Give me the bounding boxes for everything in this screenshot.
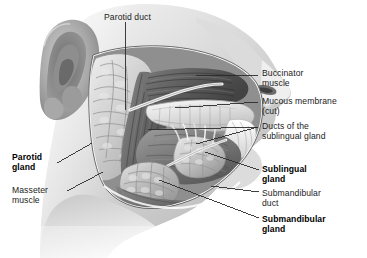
label-ducts-of-the-sublingual-gland: Ducts of thesublingual gland	[262, 121, 326, 142]
label-masseter-muscle: Massetermuscle	[12, 185, 48, 206]
label-mucous-membrane-cut: Mucous membrane(cut)	[262, 96, 337, 117]
label-line: gland	[262, 224, 326, 234]
label-submandibular-duct: Submandibularduct	[262, 188, 321, 209]
label-line: gland	[12, 162, 42, 172]
label-submandibular-gland: Submandibulargland	[262, 214, 326, 235]
label-line: Masseter	[12, 185, 48, 195]
label-line: muscle	[12, 195, 48, 205]
label-parotid-duct: Parotid duct	[104, 12, 151, 22]
label-line: Submandibular	[262, 188, 321, 198]
label-line: gland	[262, 174, 307, 184]
label-line: Mucous membrane	[262, 96, 337, 106]
label-line: duct	[262, 198, 321, 208]
label-line: Parotid	[12, 152, 42, 162]
label-sublingual-gland: Sublingualgland	[262, 164, 307, 185]
label-line: Sublingual	[262, 164, 307, 174]
label-line: Buccinator	[262, 68, 303, 78]
label-line: sublingual gland	[262, 131, 326, 141]
label-line: (cut)	[262, 106, 337, 116]
label-buccinator-muscle: Buccinatormuscle	[262, 68, 303, 89]
salivary-gland-figure: Parotid ductBuccinatormuscleMucous membr…	[0, 0, 367, 258]
label-line: Parotid duct	[104, 12, 151, 22]
label-parotid-gland: Parotidgland	[12, 152, 42, 173]
label-line: Submandibular	[262, 214, 326, 224]
label-line: muscle	[262, 78, 303, 88]
label-line: Ducts of the	[262, 121, 326, 131]
